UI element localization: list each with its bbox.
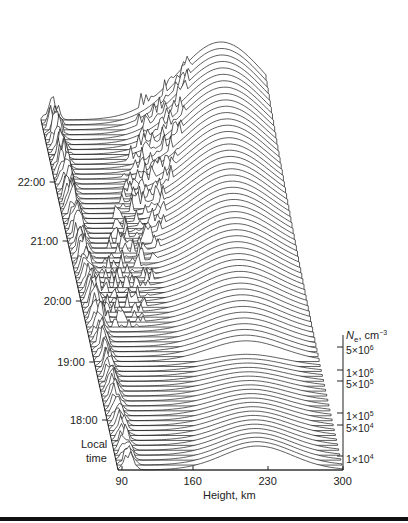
time-tick-label: 22:00 [18,176,46,188]
density-profile-traces [41,42,343,470]
z-tick-label: 5×106 [346,342,374,356]
waterfall-plot [0,0,408,523]
x-axis-label: Height, km [203,489,256,501]
x-tick-label: 230 [258,475,276,487]
z-tick-label: 5×105 [346,376,374,390]
z-tick-label: 1×104 [346,451,374,465]
time-tick-label: 18:00 [70,414,98,426]
time-tick-label: 21:00 [31,235,59,247]
time-axis-label-local: Local [81,438,107,450]
z-tick-label: 5×104 [346,420,374,434]
time-tick-label: 19:00 [57,356,85,368]
x-tick-label: 160 [183,475,201,487]
time-tick-label: 20:00 [44,295,72,307]
time-axis-label-time: time [86,452,107,464]
x-tick-label: 90 [116,475,128,487]
bottom-rule [0,517,408,521]
x-tick-label: 300 [333,475,351,487]
